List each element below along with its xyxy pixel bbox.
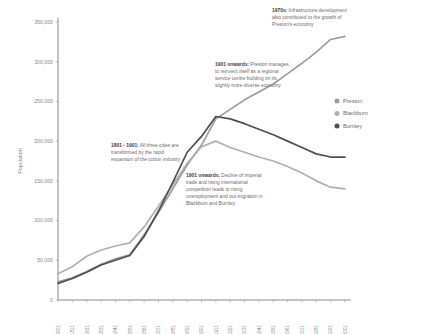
y-tick-label: 350,000 [34, 19, 53, 25]
chart-legend: PrestonBlackburnBurnley [335, 98, 368, 129]
data-series-group [58, 36, 345, 283]
annotation-lead: 1970s: [272, 8, 287, 13]
annotation-lead: 1801 - 1901: [111, 143, 139, 148]
legend-label-preston: Preston [343, 98, 362, 104]
x-tick-label: 1841 [113, 325, 118, 334]
x-tick-label: 1951 [271, 325, 276, 334]
y-tick-label: 250,000 [34, 98, 53, 104]
x-tick-label: 1911 [214, 325, 219, 334]
x-tick-label: 1861 [142, 325, 147, 334]
legend-label-burnley: Burnley [343, 123, 362, 129]
x-tick-label: 1971 [300, 325, 305, 334]
x-tick-label: 1981 [314, 325, 319, 334]
annotation-lead: 1901 onwards: [215, 62, 249, 67]
y-tick-label: 300,000 [34, 59, 53, 65]
x-tick-label: 1901 [199, 325, 204, 334]
x-tick-label: 1991 [328, 325, 333, 334]
legend-marker-blackburn [335, 111, 340, 116]
legend-marker-burnley [335, 124, 340, 129]
x-axis: 1801181118211831184118511861187118811891… [56, 300, 351, 334]
x-tick-label: 1801 [56, 325, 61, 334]
chart-canvas: 050,000100,000150,000200,000250,000300,0… [0, 0, 421, 334]
x-tick-label: 1811 [70, 325, 75, 334]
annotation-1901-decline: 1901 onwards: Decline of imperial trade … [186, 173, 272, 208]
y-tick-label: 200,000 [34, 138, 53, 144]
annotation-1970s: 1970s: Infrastructure development also c… [272, 8, 348, 29]
legend-marker-preston [335, 99, 340, 104]
y-tick-label: 100,000 [34, 217, 53, 223]
annotation-1801-1901: 1801 - 1901: All three cities are transf… [111, 143, 187, 164]
y-axis-title: Population [17, 148, 23, 173]
annotation-1901-preston: 1901 onwards: Preston manages to reinven… [215, 62, 293, 90]
population-line-chart: 050,000100,000150,000200,000250,000300,0… [0, 0, 421, 334]
x-tick-label: 2001 [343, 325, 348, 334]
x-tick-label: 1831 [99, 325, 104, 334]
x-tick-label: 1881 [171, 325, 176, 334]
legend-label-blackburn: Blackburn [343, 110, 368, 116]
x-tick-label: 1941 [257, 325, 262, 334]
series-line-preston [58, 36, 345, 281]
y-tick-label: 0 [50, 297, 53, 303]
x-tick-label: 1931 [242, 325, 247, 334]
x-tick-label: 1851 [128, 325, 133, 334]
x-tick-label: 1821 [85, 325, 90, 334]
y-tick-label: 150,000 [34, 178, 53, 184]
x-tick-label: 1921 [228, 325, 233, 334]
x-tick-label: 1961 [285, 325, 290, 334]
x-tick-label: 1891 [185, 325, 190, 334]
y-tick-label: 50,000 [37, 257, 53, 263]
y-axis: 050,000100,000150,000200,000250,000300,0… [34, 18, 58, 303]
x-tick-label: 1871 [156, 325, 161, 334]
annotation-lead: 1901 onwards: [186, 173, 220, 178]
